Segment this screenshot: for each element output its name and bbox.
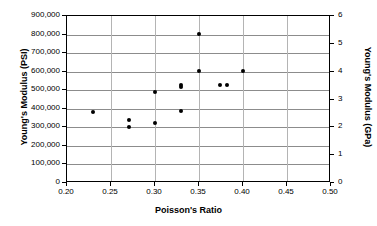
axis-tick-label: 0.40 <box>222 188 262 196</box>
axis-tick-label: 0.25 <box>90 188 130 196</box>
data-point <box>179 109 183 113</box>
axis-tick-label: 100,000 <box>31 159 60 167</box>
data-point <box>241 69 245 73</box>
gridline-horizontal <box>67 53 329 54</box>
axis-tick <box>330 126 334 127</box>
axis-tick <box>286 182 287 186</box>
data-point <box>225 83 229 87</box>
axis-tick-label: 2 <box>338 122 342 130</box>
data-point <box>153 90 157 94</box>
axis-tick <box>198 182 199 186</box>
gridline-vertical <box>243 16 244 181</box>
axis-tick-label: 0.30 <box>134 188 174 196</box>
axis-tick <box>154 182 155 186</box>
axis-tick-label: 200,000 <box>31 141 60 149</box>
axis-tick <box>330 71 334 72</box>
gridline-horizontal <box>67 127 329 128</box>
axis-tick <box>62 108 66 109</box>
axis-tick <box>110 182 111 186</box>
y-axis-title-right: Young's Modulus (GPa) <box>363 7 373 187</box>
axis-tick-label: 4 <box>338 67 342 75</box>
y-axis-title-left: Young's Modulus (PSI) <box>19 7 29 187</box>
axis-tick <box>62 71 66 72</box>
axis-tick-label: 3 <box>338 95 342 103</box>
gridline-vertical <box>199 16 200 181</box>
axis-tick <box>330 182 331 186</box>
axis-tick-label: 500,000 <box>31 85 60 93</box>
axis-tick-label: 700,000 <box>31 48 60 56</box>
axis-tick-label: 6 <box>338 11 342 19</box>
axis-tick <box>330 43 334 44</box>
axis-tick-label: 0.50 <box>310 188 350 196</box>
axis-tick <box>66 182 67 186</box>
axis-tick-label: 0 <box>338 178 342 186</box>
data-point <box>127 125 131 129</box>
data-point <box>218 83 222 87</box>
axis-tick <box>62 52 66 53</box>
axis-tick <box>62 145 66 146</box>
gridline-horizontal <box>67 146 329 147</box>
axis-tick <box>330 15 334 16</box>
gridline-vertical <box>155 16 156 181</box>
data-point <box>179 85 183 89</box>
axis-tick <box>330 99 334 100</box>
axis-tick <box>330 154 334 155</box>
gridline-vertical <box>111 16 112 181</box>
axis-tick <box>62 15 66 16</box>
plot-area <box>66 15 330 182</box>
data-point <box>91 110 95 114</box>
data-point <box>127 118 131 122</box>
axis-tick <box>62 89 66 90</box>
axis-tick <box>62 34 66 35</box>
x-axis-title: Poisson's Ratio <box>0 205 377 215</box>
gridline-vertical <box>287 16 288 181</box>
gridline-horizontal <box>67 164 329 165</box>
axis-tick-label: 600,000 <box>31 67 60 75</box>
axis-tick-label: 0.35 <box>178 188 218 196</box>
data-point <box>197 69 201 73</box>
data-point <box>153 121 157 125</box>
axis-tick <box>242 182 243 186</box>
axis-tick-label: 5 <box>338 39 342 47</box>
axis-tick-label: 0.45 <box>266 188 306 196</box>
axis-tick-label: 1 <box>338 150 342 158</box>
gridline-horizontal <box>67 90 329 91</box>
axis-tick-label: 300,000 <box>31 122 60 130</box>
gridline-horizontal <box>67 109 329 110</box>
scatter-chart: 0100,000200,000300,000400,000500,000600,… <box>0 0 377 226</box>
axis-tick-label: 800,000 <box>31 30 60 38</box>
axis-tick <box>62 126 66 127</box>
axis-tick <box>62 163 66 164</box>
axis-tick-label: 0.20 <box>46 188 86 196</box>
axis-tick-label: 900,000 <box>31 11 60 19</box>
axis-tick-label: 0 <box>56 178 60 186</box>
axis-tick-label: 400,000 <box>31 104 60 112</box>
data-point <box>197 32 201 36</box>
